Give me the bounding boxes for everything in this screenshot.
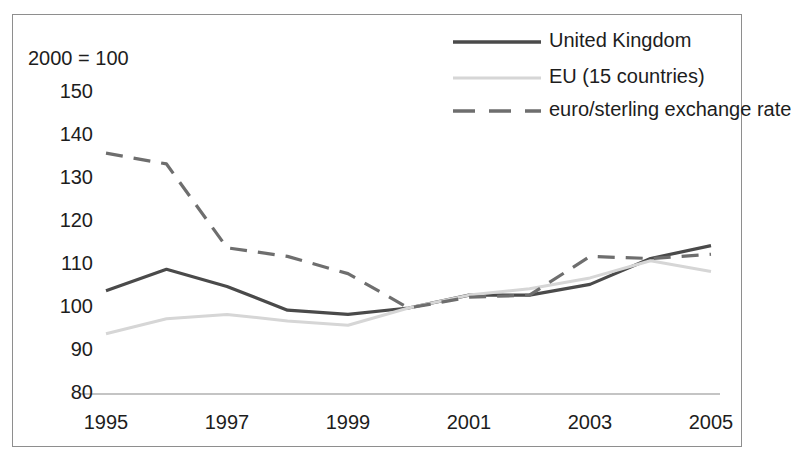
x-axis-tick-label: 2003 (550, 411, 630, 434)
y-axis-tick-label: 120 (60, 209, 93, 232)
legend-label: United Kingdom (549, 29, 691, 52)
chart-frame: 15014013012011010090802000 = 10019951997… (12, 14, 742, 447)
x-axis-tick-label: 1995 (66, 411, 146, 434)
y-axis-tick-label: 110 (61, 252, 93, 275)
cropped-title-strip (8, 0, 428, 9)
y-axis-tick-label: 90 (71, 338, 93, 361)
x-axis-tick-label: 1997 (187, 411, 267, 434)
x-axis-tick-label: 2001 (429, 411, 509, 434)
y-axis-tick-label: 140 (60, 123, 93, 146)
series-line-euro-sterling-exchange-rate (106, 153, 711, 308)
y-axis-tick-label: 150 (60, 80, 93, 103)
plot-area: 15014013012011010090802000 = 10019951997… (13, 15, 743, 448)
series-line-united-kingdom (106, 246, 711, 315)
x-axis-tick-label: 2005 (671, 411, 751, 434)
y-axis-tick-label: 100 (60, 295, 93, 318)
x-axis-tick-label: 1999 (308, 411, 388, 434)
y-axis-tick-label: 130 (60, 166, 93, 189)
legend-label: EU (15 countries) (549, 65, 705, 88)
index-base-note: 2000 = 100 (28, 47, 129, 70)
y-axis-tick-label: 80 (71, 381, 93, 404)
legend-label: euro/sterling exchange rate (549, 98, 791, 121)
